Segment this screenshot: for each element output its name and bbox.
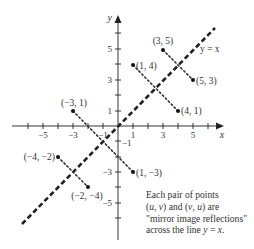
point-1-neg3 <box>131 170 135 174</box>
x-tick-label: −3 <box>68 130 78 140</box>
x-tick-label: −5 <box>38 130 48 140</box>
caption-line-2: (u, v) and (v, u) are <box>146 201 254 213</box>
caption-text: across the line <box>146 224 203 235</box>
caption-line-3: "mirror image reflections" <box>146 213 254 225</box>
caption-text: ) are <box>202 201 219 212</box>
x-tick-label: 5 <box>191 130 196 140</box>
y-tick-label: −5 <box>102 198 112 208</box>
point-label-neg4-neg2: (−4, −2) <box>24 152 55 163</box>
point-label-3-5: (3, 5) <box>153 36 174 47</box>
caption-text: = <box>208 224 218 235</box>
point-label-neg2-neg4: (−2, −4) <box>71 191 102 202</box>
y-tick-label: 5 <box>108 44 113 54</box>
point-label-1-neg3: (1, −3) <box>136 168 162 179</box>
point-5-3 <box>191 78 195 82</box>
point-4-1 <box>176 109 180 113</box>
point-1-4 <box>131 63 135 67</box>
y-tick-label: −1 <box>122 138 132 148</box>
caption: Each pair of points (u, v) and (v, u) ar… <box>146 189 254 236</box>
point-3-5 <box>161 48 165 52</box>
reflection-diagram: −5 −3 −1 1 3 5 x <box>0 0 254 249</box>
y-tick-label: 1 <box>108 106 113 116</box>
x-axis-label: x <box>219 129 225 140</box>
point-label-5-3: (5, 3) <box>196 76 217 87</box>
point-neg3-1 <box>71 109 75 113</box>
y-axis-arrow-icon <box>115 15 122 23</box>
x-tick-label: 3 <box>161 130 166 140</box>
caption-text: . <box>222 224 224 235</box>
point-label-4-1: (4, 1) <box>181 106 202 117</box>
line-label: y = x <box>200 44 220 54</box>
caption-text: ) and ( <box>163 201 188 212</box>
caption-line-4: across the line y = x. <box>146 224 254 236</box>
caption-line-1: Each pair of points <box>146 189 254 201</box>
point-neg2-neg4 <box>86 185 90 189</box>
point-label-neg3-1: (−3, 1) <box>61 98 87 109</box>
point-label-1-4: (1, 4) <box>136 61 157 72</box>
y-axis-label: y <box>107 12 113 23</box>
y-tick-label: 3 <box>108 75 113 85</box>
y-tick-label: −3 <box>102 167 112 177</box>
point-neg4-neg2 <box>56 155 60 159</box>
